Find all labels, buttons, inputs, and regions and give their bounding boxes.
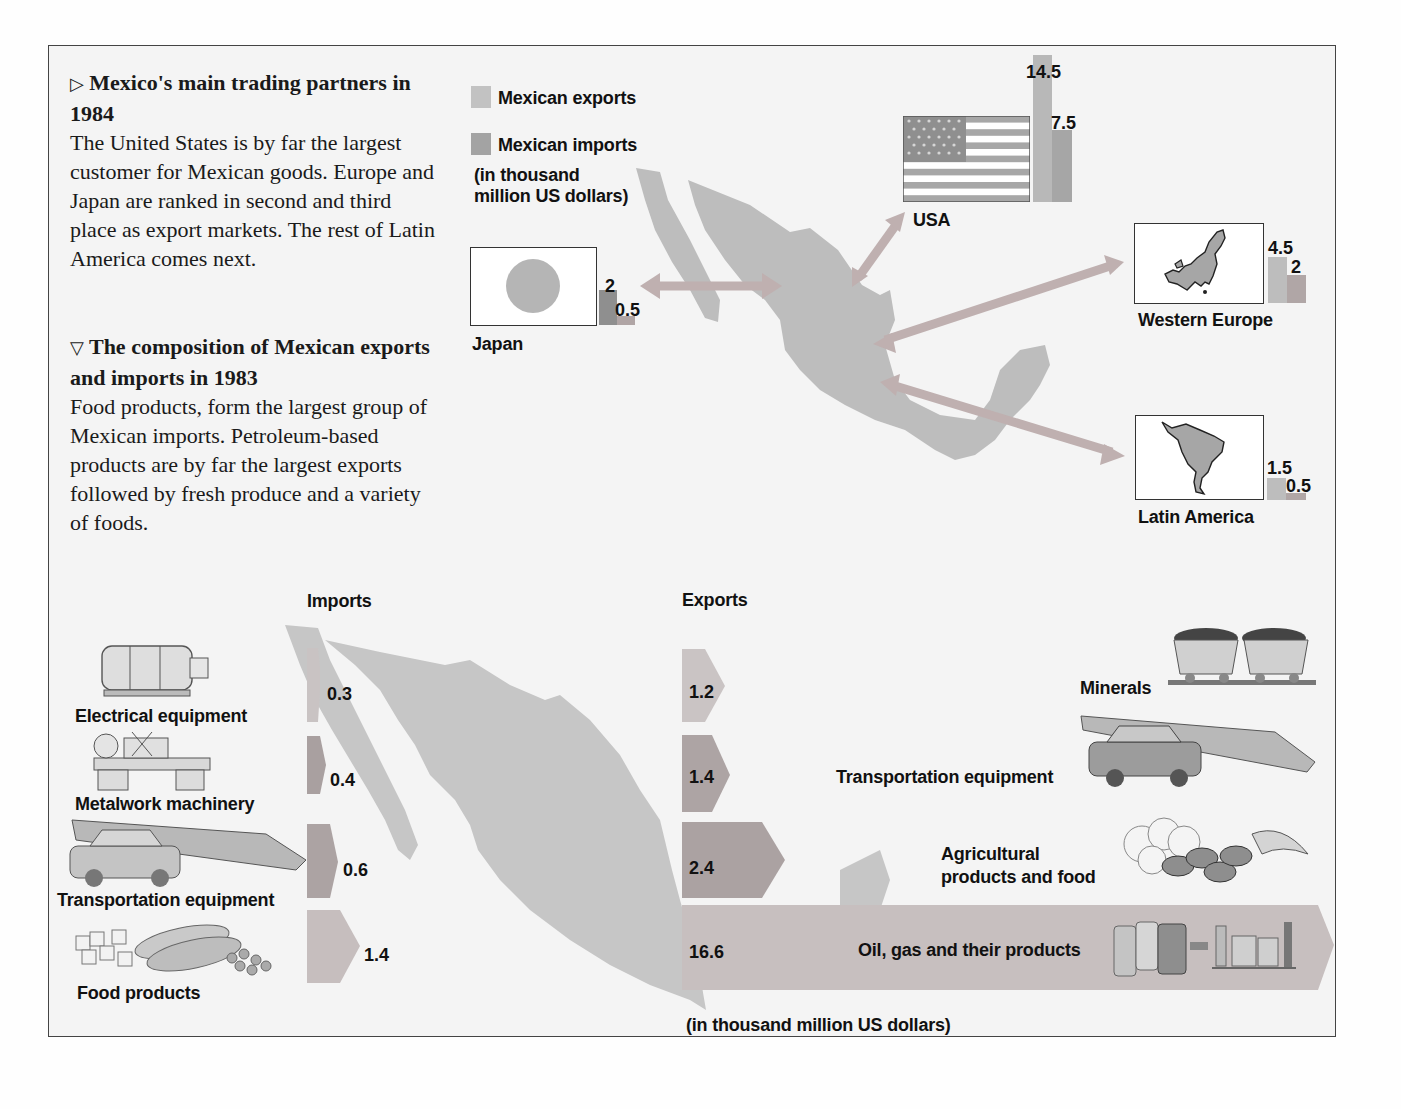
export-value: 16.6	[689, 942, 724, 963]
import-value: 0.4	[330, 770, 355, 791]
electric-motor-icon	[90, 638, 220, 700]
import-value: 1.4	[364, 945, 389, 966]
import-label: Metalwork machinery	[75, 794, 254, 815]
lathe-machine-icon	[88, 730, 218, 792]
cotton-coffee-shrimp-icon	[1112, 814, 1322, 886]
import-label: Electrical equipment	[75, 706, 247, 727]
car-and-train-icon	[1075, 708, 1320, 788]
export-label: Transportation equipment	[836, 767, 1053, 788]
exports-heading: Exports	[682, 590, 748, 611]
car-and-train-icon	[66, 810, 311, 890]
export-label: Minerals	[1080, 678, 1151, 699]
import-label: Food products	[77, 983, 200, 1004]
export-label: Agricultural products and food	[941, 843, 1096, 889]
oil-barrels-refinery-icon	[1112, 912, 1302, 978]
export-label: Oil, gas and their products	[858, 940, 1081, 961]
export-value: 1.2	[689, 682, 714, 703]
import-value: 0.6	[343, 860, 368, 881]
import-label: Transportation equipment	[57, 890, 274, 911]
corn-and-sugar-icon	[72, 912, 282, 980]
export-value: 1.4	[689, 767, 714, 788]
import-value: 0.3	[327, 684, 352, 705]
mine-carts-icon	[1168, 622, 1318, 692]
imports-heading: Imports	[307, 591, 372, 612]
export-value: 2.4	[689, 858, 714, 879]
units-note: (in thousand million US dollars)	[686, 1015, 951, 1036]
